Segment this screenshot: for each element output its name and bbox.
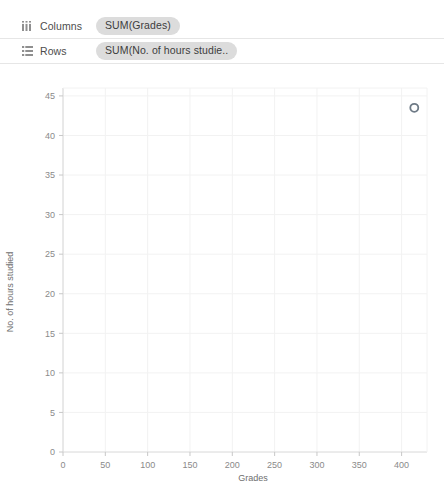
shelf-divider-bottom [0,63,444,64]
y-tick-label: 5 [50,408,55,418]
x-tick-label: 100 [140,460,155,470]
columns-shelf[interactable]: Columns SUM(Grades) [0,14,444,38]
rows-shelf[interactable]: Rows SUM(No. of hours studie.. [0,39,444,63]
x-tick-label: 0 [60,460,65,470]
x-tick-label: 350 [352,460,367,470]
y-tick-label: 25 [45,249,55,259]
y-tick-label: 30 [45,210,55,220]
y-tick-label: 20 [45,289,55,299]
y-tick-label: 40 [45,131,55,141]
y-axis-title: No. of hours studied [5,252,15,333]
y-tick-label: 35 [45,170,55,180]
data-marks[interactable] [410,104,418,112]
x-axis-title: Grades [238,473,268,483]
x-tick-label: 150 [182,460,197,470]
x-tick-label: 50 [100,460,110,470]
y-tick-label: 45 [45,91,55,101]
y-tick-label: 0 [50,447,55,457]
scatter-plot[interactable]: 0501001502002503003504000510152025303540… [0,80,444,499]
columns-shelf-label: Columns [40,20,96,32]
rows-icon [22,46,33,56]
data-point[interactable] [410,104,418,112]
pill-sum-hours-studied[interactable]: SUM(No. of hours studie.. [96,42,237,60]
shelf-area: Columns SUM(Grades) Rows SUM(No. of hour… [0,14,444,64]
tick-labels: 0501001502002503003504000510152025303540… [45,91,409,470]
x-tick-label: 250 [267,460,282,470]
x-tick-label: 400 [394,460,409,470]
axes [63,88,427,452]
chart-canvas: 0501001502002503003504000510152025303540… [0,80,444,499]
gridlines [63,88,427,452]
y-tick-label: 10 [45,368,55,378]
x-tick-label: 200 [225,460,240,470]
pill-sum-grades[interactable]: SUM(Grades) [96,17,180,35]
y-tick-label: 15 [45,329,55,339]
x-tick-label: 300 [309,460,324,470]
columns-icon [22,21,33,31]
rows-shelf-label: Rows [40,45,96,57]
